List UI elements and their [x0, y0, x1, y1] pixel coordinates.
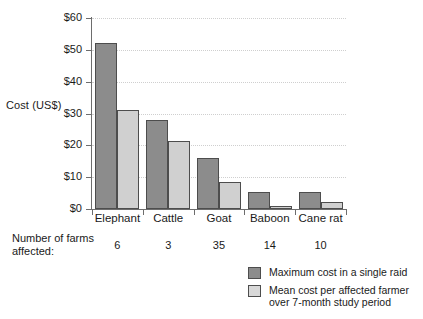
y-axis-tick	[86, 209, 91, 210]
x-axis-line	[91, 209, 347, 210]
y-axis-tick	[86, 177, 91, 178]
bar	[219, 182, 241, 209]
y-axis-tick	[86, 18, 91, 19]
chart-legend: Maximum cost in a single raid Mean cost …	[248, 266, 423, 313]
legend-swatch-icon-mean-cost	[248, 285, 261, 297]
bar	[270, 206, 292, 209]
plot-area	[92, 18, 346, 209]
y-axis-tick-label: $40	[34, 75, 82, 87]
bar	[321, 202, 343, 209]
y-axis-tick-label: $60	[34, 11, 82, 23]
x-axis-category-label: Cane rat	[287, 212, 354, 224]
bar	[117, 110, 139, 209]
y-axis-tick-label: $30	[34, 107, 82, 119]
bar	[197, 158, 219, 209]
y-axis-tick	[86, 145, 91, 146]
y-axis-tick-label: $0	[34, 202, 82, 214]
bar-chart-figure: Cost (US$) $0$10$20$30$40$50$60 Elephant…	[0, 0, 423, 319]
y-axis-tick	[86, 50, 91, 51]
y-axis-tick	[86, 82, 91, 83]
y-axis-tick-label: $20	[34, 138, 82, 150]
y-axis-tick-label: $10	[34, 170, 82, 182]
bar	[248, 192, 270, 210]
legend-item-maximum-cost: Maximum cost in a single raid	[248, 266, 423, 279]
legend-item-mean-cost: Mean cost per affected farmer over 7-mon…	[248, 284, 423, 308]
bar	[146, 120, 168, 209]
legend-label-mean-cost: Mean cost per affected farmer over 7-mon…	[269, 284, 409, 308]
y-axis-tick-label: $50	[34, 43, 82, 55]
bar	[95, 43, 117, 209]
bar	[299, 192, 321, 209]
farms-affected-value: 10	[287, 239, 354, 251]
legend-swatch-icon-maximum-cost	[248, 267, 261, 279]
bar	[168, 141, 190, 209]
y-axis-tick	[86, 114, 91, 115]
legend-label-maximum-cost: Maximum cost in a single raid	[269, 266, 407, 278]
